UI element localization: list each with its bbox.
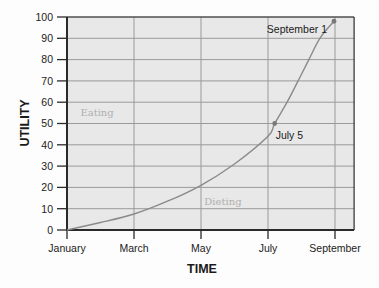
point-label: July 5 — [276, 129, 304, 141]
chart-canvas: 0102030405060708090100 JanuaryMarchMayJu… — [0, 0, 379, 288]
y-tick-label: 0 — [47, 224, 53, 236]
y-tick-label: 60 — [41, 96, 53, 108]
region-label-eating: Eating — [80, 107, 114, 118]
y-axis-ticks: 0102030405060708090100 — [35, 11, 67, 236]
data-point-marker — [332, 19, 337, 24]
x-tick-label: May — [191, 242, 212, 254]
region-label-dieting: Dieting — [204, 196, 242, 207]
x-tick-label: March — [119, 242, 148, 254]
x-tick-label: September — [309, 242, 361, 254]
y-tick-label: 90 — [41, 32, 53, 44]
point-label: September 1 — [267, 23, 327, 35]
x-tick-label: July — [259, 242, 278, 254]
y-tick-label: 20 — [41, 181, 53, 193]
y-tick-label: 80 — [41, 53, 53, 65]
x-axis-ticks: JanuaryMarchMayJulySeptember — [48, 230, 361, 254]
y-tick-label: 70 — [41, 75, 53, 87]
y-tick-label: 100 — [35, 11, 53, 23]
y-axis-title: UTILITY — [18, 99, 32, 147]
y-tick-label: 40 — [41, 139, 53, 151]
y-tick-label: 30 — [41, 160, 53, 172]
x-tick-label: January — [48, 242, 86, 254]
x-axis-title: TIME — [187, 262, 217, 276]
utility-chart: 0102030405060708090100 JanuaryMarchMayJu… — [0, 0, 379, 288]
y-tick-label: 10 — [41, 203, 53, 215]
y-tick-label: 50 — [41, 117, 53, 129]
data-point-marker — [272, 121, 277, 126]
